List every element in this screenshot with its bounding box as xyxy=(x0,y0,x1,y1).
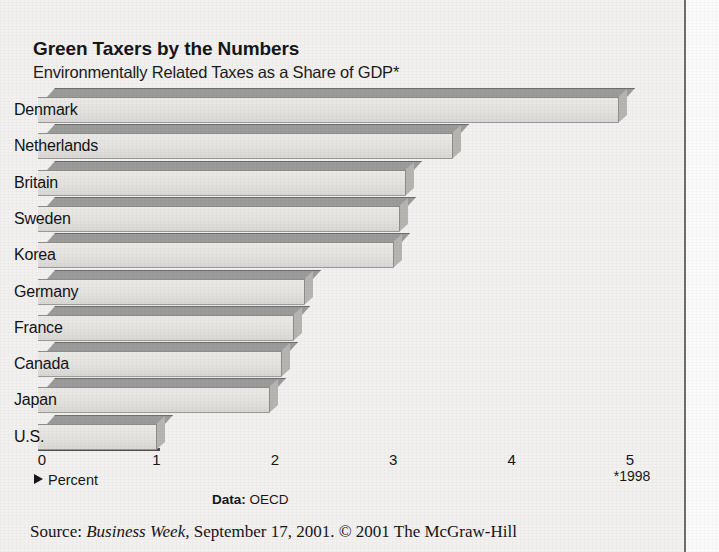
bar-front-face xyxy=(38,97,618,123)
x-axis-tick-label: 4 xyxy=(507,451,515,468)
axis-unit-label: Percent xyxy=(34,472,98,488)
bar-front-face xyxy=(38,170,405,196)
data-credit-prefix: Data: xyxy=(212,492,246,507)
bar-row xyxy=(38,378,278,413)
bar-top-face xyxy=(47,415,173,424)
bar-row xyxy=(38,197,408,232)
bar-end-cap xyxy=(393,234,402,268)
bar-front-face xyxy=(38,424,156,450)
bar-top-face xyxy=(47,161,422,170)
bar-label: Japan xyxy=(14,391,57,409)
x-axis-tick-label: 3 xyxy=(389,451,397,468)
bar-front-face xyxy=(38,315,293,341)
bar-top-face xyxy=(47,342,298,351)
bar-end-cap xyxy=(156,416,165,450)
bar-label: France xyxy=(14,319,63,337)
x-axis-tick-label: 5 xyxy=(626,451,634,468)
bar-row xyxy=(38,161,414,196)
bar-top-face xyxy=(47,197,416,206)
chart-page: Green Taxers by the Numbers Environmenta… xyxy=(0,0,719,552)
bar-row xyxy=(38,124,461,159)
bar-end-cap xyxy=(618,89,627,123)
page-outer-margin xyxy=(686,0,719,552)
axis-unit-text: Percent xyxy=(48,472,98,488)
bar-top-face xyxy=(47,233,410,242)
bar-chart-plot: DenmarkNetherlandsBritainSwedenKoreaGerm… xyxy=(0,0,684,500)
triangle-marker-icon xyxy=(34,474,43,484)
bar-label: Denmark xyxy=(14,101,78,119)
bar-top-face xyxy=(47,270,321,279)
bar-row xyxy=(38,270,313,305)
page-edge-rule xyxy=(684,0,686,552)
bar-end-cap xyxy=(269,379,278,413)
bar-label: Netherlands xyxy=(14,137,98,155)
bar-front-face xyxy=(38,206,399,232)
bar-row xyxy=(38,306,302,341)
x-axis-tick-label: 2 xyxy=(271,451,279,468)
bar-top-face xyxy=(47,88,635,97)
bar-top-face xyxy=(47,378,286,387)
bar-label: Germany xyxy=(14,283,78,301)
x-axis-tick-label: 1 xyxy=(152,451,160,468)
bar-front-face xyxy=(38,242,393,268)
bar-label: Britain xyxy=(14,174,58,192)
source-line: Source: Business Week, September 17, 200… xyxy=(30,522,517,542)
bar-front-face xyxy=(38,133,452,159)
data-credit-source: OECD xyxy=(250,492,289,507)
source-prefix: Source: xyxy=(30,522,82,541)
bar-label: Sweden xyxy=(14,210,71,228)
source-publication: Business Week, xyxy=(86,522,189,541)
bar-label: Canada xyxy=(14,355,69,373)
bar-end-cap xyxy=(452,125,461,159)
bar-row xyxy=(38,233,402,268)
axis-footnote-year: *1998 xyxy=(614,468,651,484)
data-credit: Data: OECD xyxy=(212,492,289,507)
bar-end-cap xyxy=(399,198,408,232)
bar-front-face xyxy=(38,387,269,413)
bar-label: U.S. xyxy=(14,428,44,446)
bar-row xyxy=(38,88,627,123)
bar-label: Korea xyxy=(14,246,56,264)
bar-row xyxy=(38,342,290,377)
bar-top-face xyxy=(47,306,310,315)
bar-row xyxy=(38,415,165,450)
source-rest: September 17, 2001. © 2001 The McGraw-Hi… xyxy=(194,522,517,541)
bar-top-face xyxy=(47,124,469,133)
bar-front-face xyxy=(38,351,281,377)
x-axis-tick-label: 0 xyxy=(38,451,46,468)
